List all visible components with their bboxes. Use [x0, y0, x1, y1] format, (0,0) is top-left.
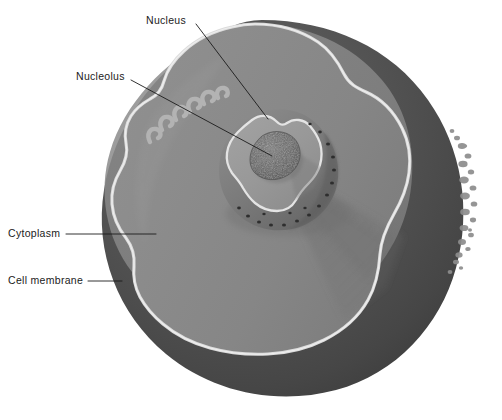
- label-cytoplasm: Cytoplasm: [8, 228, 60, 239]
- label-cell-membrane: Cell membrane: [8, 275, 83, 286]
- cell-illustration-svg: [0, 0, 502, 420]
- label-nucleolus: Nucleolus: [76, 71, 125, 82]
- label-nucleus: Nucleus: [146, 15, 186, 26]
- cell-diagram: Nucleus Nucleolus Cytoplasm Cell membran…: [0, 0, 502, 420]
